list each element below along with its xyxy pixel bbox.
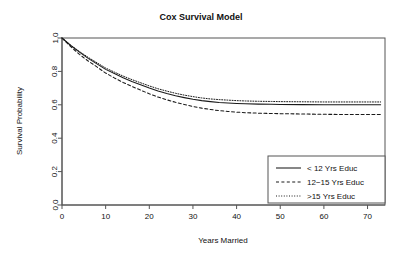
y-tick-label: 0.4 bbox=[51, 132, 60, 144]
cox-survival-chart: Cox Survival Model 0.00.20.40.60.81.0 01… bbox=[0, 0, 403, 254]
y-tick-label: 1.0 bbox=[51, 32, 60, 44]
y-tick-label: 0.6 bbox=[51, 99, 60, 111]
y-tick-label: 0.8 bbox=[51, 65, 60, 77]
legend-label-1: 12−15 Yrs Educ bbox=[307, 178, 364, 187]
x-axis-label: Years Married bbox=[198, 236, 248, 245]
legend-label-2: >15 Yrs Educ bbox=[307, 192, 355, 201]
x-tick-label: 40 bbox=[232, 212, 241, 221]
chart-legend: < 12 Yrs Educ12−15 Yrs Educ>15 Yrs Educ bbox=[268, 156, 385, 203]
y-tick-label: 0.2 bbox=[51, 165, 60, 177]
x-tick-label: 0 bbox=[60, 212, 65, 221]
x-tick-label: 50 bbox=[276, 212, 285, 221]
x-tick-label: 60 bbox=[319, 212, 328, 221]
x-tick-label: 10 bbox=[101, 212, 110, 221]
chart-title: Cox Survival Model bbox=[159, 12, 242, 22]
x-tick-label: 70 bbox=[363, 212, 372, 221]
legend-label-0: < 12 Yrs Educ bbox=[307, 164, 357, 173]
x-tick-label: 20 bbox=[145, 212, 154, 221]
y-tick-label: 0.0 bbox=[51, 199, 60, 211]
chart-canvas: Cox Survival Model 0.00.20.40.60.81.0 01… bbox=[0, 0, 403, 254]
x-tick-label: 30 bbox=[188, 212, 197, 221]
y-axis-label: Survival Probability bbox=[15, 87, 24, 155]
